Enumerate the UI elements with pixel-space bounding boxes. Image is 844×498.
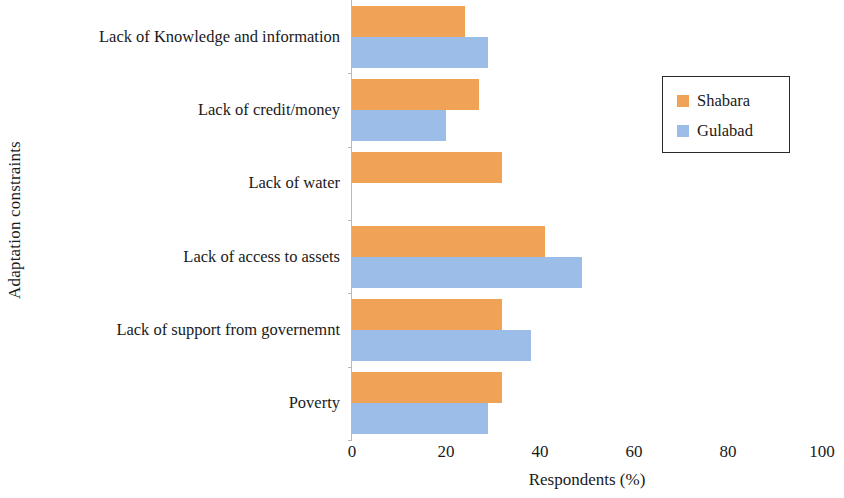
bar-shabara-2 bbox=[352, 152, 502, 183]
legend-item-shabara: Shabara bbox=[677, 86, 789, 116]
category-label-0: Lack of Knowledge and information bbox=[99, 28, 340, 45]
x-tick-label-100: 100 bbox=[809, 442, 835, 462]
x-tick-label-40: 40 bbox=[532, 442, 549, 462]
plot-area bbox=[352, 0, 822, 440]
x-tick-label-20: 20 bbox=[438, 442, 455, 462]
x-axis-title: Respondents (%) bbox=[352, 470, 822, 490]
y-axis-tick-3 bbox=[348, 293, 352, 294]
bar-shabara-1 bbox=[352, 79, 479, 110]
legend-label-gulabad: Gulabad bbox=[697, 123, 753, 140]
y-axis-tick-2 bbox=[348, 220, 352, 221]
bar-gulabad-0 bbox=[352, 37, 488, 68]
legend-label-shabara: Shabara bbox=[697, 93, 750, 110]
y-axis-tick-5 bbox=[348, 440, 352, 441]
bar-chart-figure: Adaptation constraints Lack of Knowledge… bbox=[0, 0, 844, 498]
bar-gulabad-5 bbox=[352, 403, 488, 434]
y-axis-tick-1 bbox=[348, 147, 352, 148]
y-axis-tick-4 bbox=[348, 367, 352, 368]
category-label-2: Lack of water bbox=[248, 175, 340, 192]
x-tick-label-0: 0 bbox=[348, 442, 357, 462]
category-label-1: Lack of credit/money bbox=[198, 102, 340, 119]
y-axis-title: Adaptation constraints bbox=[0, 0, 30, 440]
category-label-3: Lack of access to assets bbox=[183, 248, 340, 265]
bar-gulabad-4 bbox=[352, 330, 531, 361]
x-axis-tick-labels: 020406080100 bbox=[352, 442, 822, 468]
bar-shabara-4 bbox=[352, 299, 502, 330]
chart-legend: Shabara Gulabad bbox=[662, 76, 790, 153]
bar-shabara-3 bbox=[352, 226, 545, 257]
x-tick-label-60: 60 bbox=[626, 442, 643, 462]
category-axis-labels: Lack of Knowledge and informationLack of… bbox=[28, 0, 346, 440]
legend-swatch-gulabad-icon bbox=[677, 125, 689, 137]
y-axis-title-text: Adaptation constraints bbox=[5, 141, 25, 299]
bar-gulabad-3 bbox=[352, 257, 582, 288]
category-label-4: Lack of support from governemnt bbox=[116, 322, 340, 339]
legend-swatch-shabara-icon bbox=[677, 95, 689, 107]
x-tick-label-80: 80 bbox=[720, 442, 737, 462]
legend-item-gulabad: Gulabad bbox=[677, 116, 789, 146]
y-axis-tick-0 bbox=[348, 73, 352, 74]
bar-gulabad-1 bbox=[352, 110, 446, 141]
bar-shabara-5 bbox=[352, 372, 502, 403]
bar-shabara-0 bbox=[352, 6, 465, 37]
category-label-5: Poverty bbox=[289, 395, 340, 412]
